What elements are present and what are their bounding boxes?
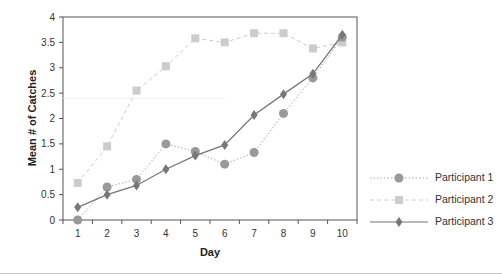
data-point-circle xyxy=(220,160,229,169)
data-point-square xyxy=(133,87,141,95)
legend-item-participant-3: Participant 3 xyxy=(368,211,502,233)
data-point-diamond xyxy=(280,89,287,99)
data-point-diamond xyxy=(162,164,169,174)
x-tick-label: 5 xyxy=(193,228,199,239)
data-point-diamond xyxy=(104,190,111,200)
x-tick-label: 8 xyxy=(281,228,287,239)
x-tick-label: 4 xyxy=(163,228,169,239)
data-point-square xyxy=(74,179,82,187)
x-axis-label: Day xyxy=(200,246,221,258)
data-point-square xyxy=(250,29,258,37)
y-tick-label: 3 xyxy=(49,62,55,73)
y-tick-label: 2 xyxy=(49,113,55,124)
data-point-circle xyxy=(279,109,288,118)
x-tick-label: 6 xyxy=(222,228,228,239)
y-tick-label: 1 xyxy=(49,164,55,175)
legend-swatch-circle-icon xyxy=(368,167,432,189)
x-tick-label: 7 xyxy=(251,228,257,239)
data-point-diamond xyxy=(74,202,81,212)
series-line xyxy=(78,35,343,208)
series-participant-1 xyxy=(73,33,347,225)
y-tick-label: 1.5 xyxy=(41,138,55,149)
data-point-square xyxy=(162,62,170,70)
data-point-square xyxy=(309,44,317,52)
y-tick-label: 0.5 xyxy=(41,189,55,200)
x-tick-label: 9 xyxy=(310,228,316,239)
divider xyxy=(0,273,502,274)
y-tick-label: 0 xyxy=(49,215,55,226)
x-tick-label: 3 xyxy=(134,228,140,239)
data-point-diamond xyxy=(251,110,258,120)
y-tick-label: 3.5 xyxy=(41,37,55,48)
x-tick-label: 2 xyxy=(104,228,110,239)
series-participant-3 xyxy=(74,30,346,213)
data-point-circle xyxy=(73,216,82,225)
x-tick-label: 10 xyxy=(337,228,349,239)
legend-label: Participant 1 xyxy=(435,171,493,183)
data-point-diamond xyxy=(221,140,228,150)
data-point-square xyxy=(221,38,229,46)
line-chart: 00.511.522.533.5412345678910 Mean # of C… xyxy=(0,0,502,278)
legend-item-participant-1: Participant 1 xyxy=(368,167,502,189)
legend-item-participant-2: Participant 2 xyxy=(368,189,502,211)
y-tick-label: 2.5 xyxy=(41,88,55,99)
data-point-square xyxy=(191,34,199,42)
legend-label: Participant 2 xyxy=(435,193,493,205)
data-point-square xyxy=(280,29,288,37)
series-line xyxy=(78,33,343,183)
legend: Participant 1 Participant 2 Participant … xyxy=(368,167,502,233)
data-point-circle xyxy=(161,139,170,148)
y-axis-label: Mean # of Catches xyxy=(26,70,38,167)
legend-swatch-square-icon xyxy=(368,189,432,211)
legend-label: Participant 3 xyxy=(435,215,493,227)
y-tick-label: 4 xyxy=(49,12,55,23)
series-line xyxy=(78,37,343,220)
series-participant-2 xyxy=(74,29,347,187)
x-tick-label: 1 xyxy=(75,228,81,239)
data-point-circle xyxy=(250,148,259,157)
data-point-square xyxy=(103,142,111,150)
series-group xyxy=(73,29,347,224)
legend-swatch-diamond-icon xyxy=(368,211,432,233)
